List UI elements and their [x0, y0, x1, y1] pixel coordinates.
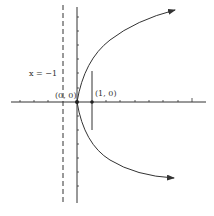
vertex-label: (0, 0) — [55, 91, 77, 100]
x-axis — [11, 98, 206, 102]
vertex-point — [75, 100, 79, 104]
parabola-diagram: x = −1 (0, 0) (1, 0) — [0, 0, 214, 216]
directrix-label: x = −1 — [29, 69, 57, 78]
focus-point — [90, 100, 94, 104]
x-axis-ticks — [20, 98, 192, 102]
focus-label: (1, 0) — [95, 89, 117, 98]
